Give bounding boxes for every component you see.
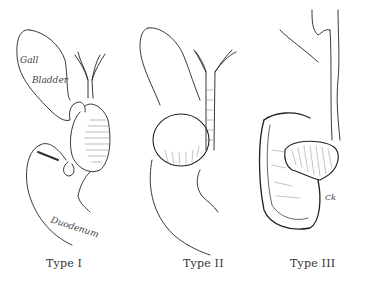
annotation-bladder: Bladder bbox=[32, 75, 68, 85]
panel-label-type-i: Type I bbox=[46, 257, 82, 270]
panel-label-type-ii: Type II bbox=[183, 257, 224, 270]
annotation-gall: Gall bbox=[20, 55, 38, 65]
panel-label-type-iii: Type III bbox=[290, 257, 335, 270]
type-ii-drawing bbox=[140, 28, 236, 255]
artist-signature: Ck bbox=[325, 193, 336, 202]
illustration-canvas bbox=[0, 0, 375, 286]
